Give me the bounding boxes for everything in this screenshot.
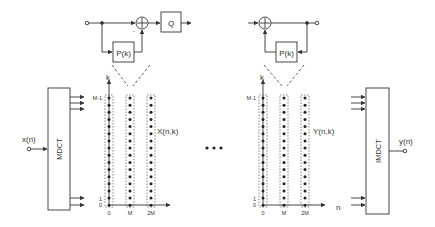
left-tick-n-m: M bbox=[128, 210, 133, 216]
coefficient-dot bbox=[129, 125, 132, 128]
decoder-predictor-label: P(k) bbox=[279, 49, 294, 58]
coefficient-dot bbox=[150, 111, 153, 114]
coefficient-dot bbox=[129, 132, 132, 135]
coefficient-dot bbox=[108, 204, 111, 207]
encoder-prediction-loop bbox=[85, 12, 191, 86]
right-tick-n-m: M bbox=[282, 210, 287, 216]
coefficient-dot bbox=[262, 147, 265, 150]
left-tick-n-2m: 2M bbox=[147, 210, 155, 216]
coefficient-dot bbox=[129, 154, 132, 157]
coefficient-dot bbox=[108, 197, 111, 200]
coefficient-dot bbox=[304, 125, 307, 128]
right-n-axis-label: n bbox=[336, 203, 340, 212]
coefficient-dot bbox=[304, 132, 307, 135]
coefficient-dot bbox=[129, 147, 132, 150]
coefficient-dot bbox=[150, 125, 153, 128]
mdct-label: MDCT bbox=[55, 138, 64, 160]
coefficient-dot bbox=[262, 204, 265, 207]
imdct-label: IMDCT bbox=[374, 139, 383, 163]
coefficient-dot bbox=[283, 154, 286, 157]
coefficient-dot bbox=[150, 190, 153, 193]
coefficient-dot bbox=[150, 132, 153, 135]
coefficient-dot bbox=[108, 125, 111, 128]
coefficient-dot bbox=[304, 175, 307, 178]
coefficient-dot bbox=[283, 139, 286, 142]
coefficient-dot bbox=[150, 104, 153, 107]
coefficient-dot bbox=[283, 204, 286, 207]
coefficient-dot bbox=[304, 104, 307, 107]
coefficient-dot bbox=[129, 204, 132, 207]
coefficient-dot bbox=[304, 190, 307, 193]
output-terminal-icon bbox=[403, 149, 407, 153]
coefficient-dot bbox=[304, 154, 307, 157]
right-coefficient-grid bbox=[259, 80, 325, 207]
coefficient-dot bbox=[262, 197, 265, 200]
coefficient-dot bbox=[150, 168, 153, 171]
coefficient-dot bbox=[150, 182, 153, 185]
adder-minus-sign: - bbox=[133, 28, 135, 34]
coefficient-dot bbox=[283, 118, 286, 121]
coefficient-dot bbox=[108, 118, 111, 121]
coefficient-dot bbox=[283, 197, 286, 200]
decoder-loop-output-terminal-icon bbox=[315, 21, 319, 25]
coefficient-dot bbox=[283, 111, 286, 114]
coefficient-dot bbox=[129, 197, 132, 200]
coefficient-dot bbox=[150, 118, 153, 121]
coefficient-dot bbox=[129, 111, 132, 114]
coefficient-dot bbox=[283, 175, 286, 178]
coefficient-dot bbox=[304, 182, 307, 185]
coefficient-dot bbox=[283, 182, 286, 185]
coefficient-dot bbox=[304, 118, 307, 121]
coefficient-dot bbox=[108, 147, 111, 150]
coefficient-dot bbox=[262, 104, 265, 107]
coefficient-dot bbox=[262, 139, 265, 142]
right-tick-n-2m: 2M bbox=[301, 210, 309, 216]
coefficient-dot bbox=[108, 190, 111, 193]
left-tick-k-0: 0 bbox=[99, 202, 102, 208]
coefficient-dot bbox=[262, 190, 265, 193]
coefficient-dot bbox=[129, 104, 132, 107]
right-grid-dots bbox=[262, 97, 307, 207]
coefficient-dot bbox=[262, 125, 265, 128]
coefficient-dot bbox=[283, 125, 286, 128]
coefficient-dot bbox=[262, 118, 265, 121]
loop-input-terminal-icon bbox=[85, 21, 89, 25]
right-series-label: Y(n,k) bbox=[313, 127, 335, 136]
right-tick-k-0: 0 bbox=[253, 202, 256, 208]
coefficient-dot bbox=[108, 139, 111, 142]
left-coefficient-grid bbox=[105, 80, 170, 207]
coefficient-dot bbox=[129, 175, 132, 178]
coefficient-dot bbox=[150, 154, 153, 157]
coefficient-dot bbox=[150, 97, 153, 100]
input-terminal-icon bbox=[27, 147, 31, 151]
coefficient-dot bbox=[108, 97, 111, 100]
right-tick-n-0: 0 bbox=[261, 210, 264, 216]
coefficient-dot bbox=[129, 190, 132, 193]
coefficient-dot bbox=[129, 161, 132, 164]
coefficient-dot bbox=[150, 197, 153, 200]
coefficient-dot bbox=[283, 132, 286, 135]
right-tick-m-minus-1: M-1 bbox=[247, 95, 256, 101]
coefficient-dot bbox=[283, 97, 286, 100]
quantizer-label: Q bbox=[168, 19, 174, 28]
left-tick-m-minus-1: M-1 bbox=[93, 95, 102, 101]
coefficient-dot bbox=[283, 168, 286, 171]
coefficient-dot bbox=[304, 111, 307, 114]
coefficient-dot bbox=[150, 175, 153, 178]
encoder-predictor-label: P(k) bbox=[116, 49, 131, 58]
right-k-axis-label: k bbox=[260, 73, 265, 82]
coefficient-dot bbox=[108, 168, 111, 171]
coefficient-dot bbox=[262, 175, 265, 178]
left-series-label: X(n,k) bbox=[157, 127, 179, 136]
ellipsis-dots-icon bbox=[205, 146, 222, 149]
input-label: x(n) bbox=[22, 135, 36, 144]
coefficient-dot bbox=[150, 204, 153, 207]
coefficient-dot bbox=[129, 97, 132, 100]
coefficient-dot bbox=[108, 154, 111, 157]
left-k-axis-label: k bbox=[106, 73, 111, 82]
left-tick-n-0: 0 bbox=[107, 210, 110, 216]
coefficient-dot bbox=[262, 111, 265, 114]
output-label: y(n) bbox=[399, 137, 413, 146]
coefficient-dot bbox=[129, 139, 132, 142]
coefficient-dot bbox=[108, 161, 111, 164]
